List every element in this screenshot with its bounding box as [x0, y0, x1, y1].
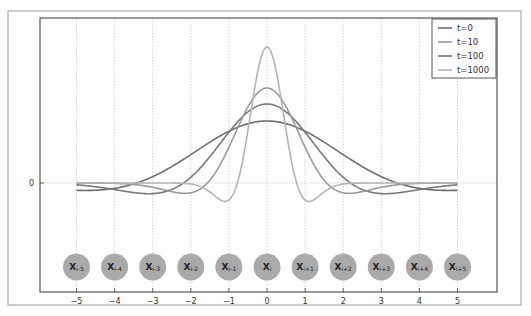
- x-tick-label: −3: [147, 297, 159, 306]
- figure: Xi-5Xi-4Xi-3Xi-2Xi-1XiXi+1Xi+2Xi+3Xi+4Xi…: [0, 0, 531, 316]
- legend-label: t=10: [457, 37, 478, 47]
- node-xi5: Xi+5: [444, 254, 471, 281]
- node-xi1: Xi-1: [215, 254, 242, 281]
- x-tick-label: 5: [455, 297, 460, 306]
- x-tick-label: −1: [223, 297, 235, 306]
- node-xi3: Xi+3: [368, 254, 395, 281]
- node-xi: Xi: [254, 254, 281, 281]
- node-circles: Xi-5Xi-4Xi-3Xi-2Xi-1XiXi+1Xi+2Xi+3Xi+4Xi…: [63, 254, 471, 281]
- node-xi4: Xi-4: [101, 254, 128, 281]
- node-xi2: Xi+2: [330, 254, 357, 281]
- y-tick-label: 0: [29, 179, 34, 188]
- node-xi4: Xi+4: [406, 254, 433, 281]
- x-tick-label: −4: [109, 297, 121, 306]
- x-tick-label: −5: [71, 297, 83, 306]
- x-tick-label: −2: [185, 297, 197, 306]
- legend-label: t=100: [457, 51, 484, 61]
- x-tick-label: 2: [341, 297, 346, 306]
- legend-label: t=0: [457, 23, 473, 33]
- x-tick-label: 4: [417, 297, 422, 306]
- x-tick-label: 0: [264, 297, 269, 306]
- legend-label: t=1000: [457, 65, 489, 75]
- node-xi1: Xi+1: [292, 254, 319, 281]
- x-tick-label: 3: [379, 297, 384, 306]
- legend: t=0t=10t=100t=1000: [432, 19, 496, 78]
- x-tick-label: 1: [303, 297, 308, 306]
- node-xi3: Xi-3: [139, 254, 166, 281]
- node-xi2: Xi-2: [177, 254, 204, 281]
- node-xi5: Xi-5: [63, 254, 90, 281]
